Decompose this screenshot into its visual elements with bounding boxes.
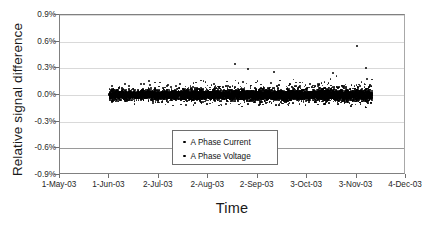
x-tick-mark bbox=[207, 174, 208, 178]
y-tick-mark bbox=[54, 41, 59, 42]
data-point bbox=[154, 82, 156, 84]
data-point bbox=[296, 99, 298, 101]
data-point bbox=[277, 92, 279, 94]
data-point bbox=[322, 89, 324, 91]
data-point bbox=[309, 83, 311, 85]
data-point bbox=[150, 87, 152, 89]
x-tick-mark bbox=[356, 174, 357, 178]
data-point bbox=[211, 95, 213, 97]
x-tick-mark bbox=[108, 174, 109, 178]
data-point bbox=[353, 90, 355, 92]
data-point bbox=[277, 87, 279, 89]
data-point bbox=[247, 103, 249, 105]
data-point bbox=[296, 94, 298, 96]
data-point bbox=[332, 90, 334, 92]
data-point bbox=[369, 96, 371, 98]
data-point bbox=[241, 98, 243, 100]
data-point bbox=[172, 105, 174, 107]
data-point bbox=[350, 99, 352, 101]
data-point bbox=[207, 89, 209, 91]
data-point bbox=[138, 99, 140, 101]
data-point bbox=[175, 99, 177, 101]
data-point bbox=[187, 90, 189, 92]
data-point bbox=[229, 96, 231, 98]
y-tick-mark bbox=[54, 67, 59, 68]
data-point bbox=[366, 101, 368, 103]
data-point bbox=[354, 85, 356, 87]
data-point bbox=[360, 103, 362, 105]
data-point bbox=[322, 85, 324, 87]
data-point bbox=[136, 91, 138, 93]
data-point bbox=[242, 81, 244, 83]
chart-legend: A Phase Current A Phase Voltage bbox=[172, 130, 278, 165]
data-point bbox=[295, 82, 297, 84]
data-point bbox=[166, 95, 168, 97]
data-point bbox=[143, 99, 145, 101]
data-point bbox=[203, 94, 205, 96]
y-tick-label: -0.3% bbox=[8, 116, 56, 125]
data-point bbox=[190, 85, 192, 87]
data-point bbox=[321, 95, 323, 97]
data-point bbox=[230, 103, 232, 105]
data-point bbox=[211, 84, 213, 86]
data-point bbox=[327, 97, 329, 99]
data-point bbox=[210, 98, 212, 100]
data-point bbox=[316, 96, 318, 98]
data-point bbox=[228, 94, 230, 96]
data-point bbox=[330, 78, 332, 80]
data-point bbox=[329, 88, 331, 90]
data-point bbox=[355, 90, 357, 92]
data-point bbox=[183, 101, 185, 103]
data-point bbox=[128, 96, 130, 98]
data-point bbox=[366, 88, 368, 90]
data-point bbox=[193, 104, 195, 106]
data-point bbox=[187, 96, 189, 98]
data-point bbox=[243, 88, 245, 90]
data-point bbox=[321, 101, 323, 103]
data-point bbox=[213, 83, 215, 85]
data-point bbox=[193, 82, 195, 84]
data-point bbox=[168, 94, 170, 96]
data-point bbox=[158, 89, 160, 91]
data-point bbox=[332, 72, 334, 74]
data-point bbox=[128, 85, 130, 87]
x-tick-label: 4-Dec-03 bbox=[370, 180, 435, 189]
data-point bbox=[232, 100, 234, 102]
data-point bbox=[325, 94, 327, 96]
data-point bbox=[219, 87, 221, 89]
data-point bbox=[308, 87, 310, 89]
data-point bbox=[229, 86, 231, 88]
data-point bbox=[311, 92, 313, 94]
data-point bbox=[169, 89, 171, 91]
data-point bbox=[257, 80, 259, 82]
data-point bbox=[356, 100, 358, 102]
data-point bbox=[176, 88, 178, 90]
data-point bbox=[179, 83, 181, 85]
data-point bbox=[156, 100, 158, 102]
data-point bbox=[212, 102, 214, 104]
data-point bbox=[281, 103, 283, 105]
data-point bbox=[351, 84, 353, 86]
data-point bbox=[340, 102, 342, 104]
y-tick-label: -0.6% bbox=[8, 143, 56, 152]
data-point bbox=[371, 79, 373, 81]
data-point bbox=[287, 99, 289, 101]
data-point bbox=[226, 81, 228, 83]
data-point bbox=[371, 85, 373, 87]
data-point bbox=[333, 88, 335, 90]
data-point bbox=[149, 84, 151, 86]
data-point bbox=[339, 90, 341, 92]
data-point bbox=[255, 88, 257, 90]
data-point bbox=[234, 63, 236, 65]
data-point bbox=[224, 90, 226, 92]
data-point bbox=[222, 96, 224, 98]
legend-marker-dot-icon bbox=[183, 155, 186, 158]
y-tick-label: 0.9% bbox=[8, 10, 56, 19]
data-point bbox=[284, 97, 286, 99]
data-point bbox=[184, 88, 186, 90]
data-point bbox=[111, 89, 113, 91]
data-point bbox=[302, 82, 304, 84]
data-point bbox=[367, 92, 369, 94]
data-point bbox=[300, 90, 302, 92]
data-point bbox=[168, 92, 170, 94]
